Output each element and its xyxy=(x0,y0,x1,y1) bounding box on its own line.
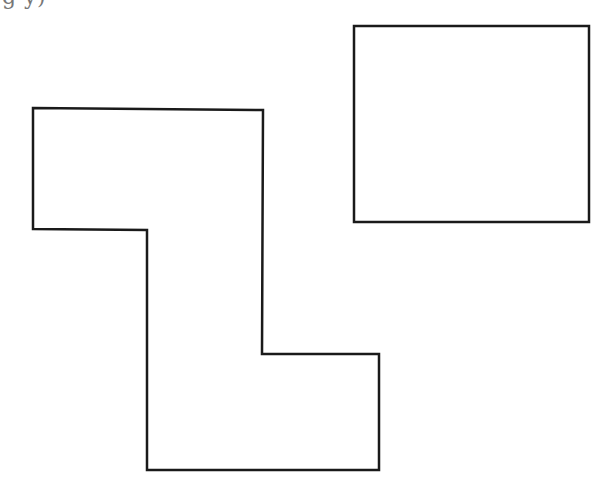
diagram-canvas xyxy=(0,0,609,499)
z-shaped-polygon xyxy=(33,108,379,470)
rectangle xyxy=(354,26,589,222)
